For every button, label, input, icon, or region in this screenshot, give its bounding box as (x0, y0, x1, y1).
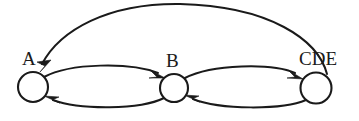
edge-b-to-a (44, 96, 164, 107)
node-b-circle[interactable] (160, 74, 188, 102)
edge-b-to-cde-path (185, 66, 295, 78)
state-transition-diagram: A B CDE (0, 0, 359, 121)
node-b-label: B (166, 50, 179, 71)
edge-a-to-b-arrowhead (149, 70, 165, 78)
edge-cde-to-a (37, 4, 327, 74)
node-cde-circle[interactable] (301, 73, 332, 104)
node-a[interactable]: A (18, 48, 48, 102)
diagram-canvas: A B CDE (0, 0, 359, 121)
edge-b-to-cde (185, 66, 303, 79)
node-cde-label: CDE (299, 48, 337, 69)
edge-cde-to-a-path (42, 4, 327, 74)
node-a-label: A (22, 48, 36, 69)
edge-b-to-a-arrowhead (44, 96, 60, 103)
node-cde[interactable]: CDE (299, 48, 337, 104)
edge-cde-to-b (184, 95, 306, 107)
edge-b-to-a-path (53, 98, 164, 107)
edge-cde-to-a-arrowhead (37, 60, 51, 72)
node-a-circle[interactable] (18, 72, 48, 102)
edge-a-to-b (44, 66, 165, 78)
edge-b-to-cde-arrowhead (287, 70, 303, 79)
edge-a-to-b-path (44, 66, 158, 77)
node-b[interactable]: B (160, 50, 188, 102)
edge-cde-to-b-path (193, 99, 306, 107)
